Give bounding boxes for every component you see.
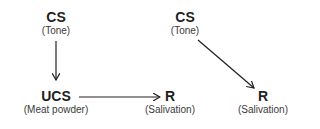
left-ucs-label: UCS — [24, 89, 88, 104]
arrow-cs-to-r — [198, 40, 254, 88]
right-r-label: R — [238, 89, 288, 104]
left-ucs-sub: (Meat powder) — [24, 104, 88, 116]
left-r-sub: (Salivation) — [145, 104, 195, 116]
right-cs-node: CS (Tone) — [171, 10, 199, 37]
left-ucs-node: UCS (Meat powder) — [24, 89, 88, 116]
left-r-label: R — [145, 89, 195, 104]
left-cs-node: CS (Tone) — [42, 10, 70, 37]
left-r-node: R (Salivation) — [145, 89, 195, 116]
right-cs-label: CS — [171, 10, 199, 25]
left-cs-sub: (Tone) — [42, 25, 70, 37]
right-r-node: R (Salivation) — [238, 89, 288, 116]
left-cs-label: CS — [42, 10, 70, 25]
right-cs-sub: (Tone) — [171, 25, 199, 37]
right-r-sub: (Salivation) — [238, 104, 288, 116]
